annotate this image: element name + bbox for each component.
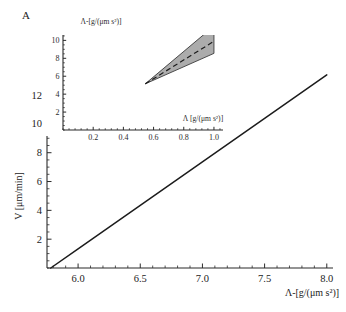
tick-label: 8 bbox=[56, 54, 60, 63]
tick-label: 8.0 bbox=[320, 273, 333, 284]
figure-container: 6.06.57.07.58.0 24681012 Λ-[g/(μm s²)] V… bbox=[0, 0, 346, 312]
main-x-tick-labels: 6.06.57.07.58.0 bbox=[72, 273, 334, 284]
tick-label: 7.5 bbox=[258, 273, 271, 284]
tick-label: 2 bbox=[37, 234, 42, 245]
tick-label: 6.5 bbox=[134, 273, 147, 284]
tick-label: 8 bbox=[37, 147, 42, 158]
tick-label: 4 bbox=[56, 90, 60, 99]
tick-label: 0.8 bbox=[179, 133, 189, 142]
main-x-ticks bbox=[53, 264, 327, 269]
main-y-axis-label: V [μm/min] bbox=[13, 172, 24, 220]
tick-label: 0.4 bbox=[118, 133, 128, 142]
tick-label: 1.0 bbox=[209, 133, 219, 142]
tick-label: 6 bbox=[56, 72, 60, 81]
tick-label: 10 bbox=[52, 36, 60, 45]
tick-label: 7.0 bbox=[196, 273, 209, 284]
panel-label: A bbox=[22, 9, 30, 21]
inset-plot: 0.20.40.60.81.0 246810 Λ [g/(μm s²)] Λ-[… bbox=[44, 17, 230, 142]
tick-label: 6.0 bbox=[72, 273, 85, 284]
figure-canvas: 6.06.57.07.58.0 24681012 Λ-[g/(μm s²)] V… bbox=[0, 0, 346, 312]
tick-label: 12 bbox=[32, 90, 43, 101]
tick-label: 6 bbox=[37, 176, 42, 187]
inset-y-axis-label: Λ-[g/(μm s²)] bbox=[80, 17, 121, 26]
tick-label: 0.6 bbox=[149, 133, 159, 142]
tick-label: 10 bbox=[32, 118, 43, 129]
inset-x-axis-label: Λ [g/(μm s²)] bbox=[183, 114, 223, 123]
tick-label: 4 bbox=[37, 205, 43, 216]
main-y-tick-labels: 24681012 bbox=[32, 90, 43, 245]
tick-label: 0.2 bbox=[88, 133, 98, 142]
tick-label: 2 bbox=[56, 108, 60, 117]
main-x-axis-label: Λ-[g/(μm s²)] bbox=[285, 287, 339, 299]
